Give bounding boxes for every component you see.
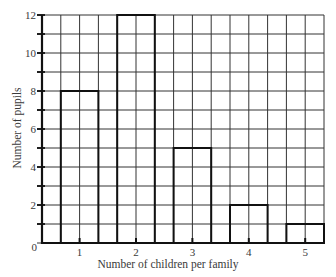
x-axis-label: Number of children per family (97, 258, 238, 271)
y-tick-label: 6 (31, 123, 37, 135)
x-tick-label: 5 (302, 246, 308, 258)
x-tick-label: 3 (190, 246, 196, 258)
chart-grid (37, 15, 324, 243)
y-tick-label: 10 (25, 47, 37, 59)
y-axis-ticks: 024681012 (25, 9, 38, 253)
bar-chart: 024681012 12345 Number of pupils Number … (0, 0, 336, 277)
y-tick-label: 0 (32, 241, 38, 253)
x-axis-ticks: 12345 (77, 238, 309, 258)
y-tick-label: 2 (31, 199, 37, 211)
x-tick-label: 1 (77, 246, 83, 258)
x-tick-label: 4 (246, 246, 252, 258)
y-tick-label: 12 (25, 9, 36, 21)
y-tick-label: 4 (31, 161, 37, 173)
y-axis-label: Number of pupils (11, 87, 24, 169)
y-tick-label: 8 (31, 85, 37, 97)
x-tick-label: 2 (133, 246, 139, 258)
